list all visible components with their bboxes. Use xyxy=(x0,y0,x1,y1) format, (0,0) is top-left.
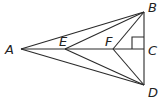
label-A: A xyxy=(4,42,14,57)
segment-FB xyxy=(113,12,144,49)
label-D: D xyxy=(148,85,158,100)
segment-FD xyxy=(113,49,144,85)
right-angle-marker xyxy=(132,37,144,49)
label-C: C xyxy=(148,43,158,58)
segment-ED xyxy=(65,49,144,85)
segment-AB xyxy=(21,12,144,49)
label-E: E xyxy=(59,34,68,49)
label-B: B xyxy=(148,0,157,15)
label-F: F xyxy=(105,34,113,49)
geometry-diagram: A E F C B D xyxy=(0,0,168,105)
segment-AD xyxy=(21,49,144,85)
